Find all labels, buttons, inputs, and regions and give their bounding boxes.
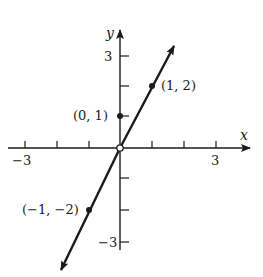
y-axis-label: y bbox=[105, 25, 115, 41]
point-label-1-2: (1, 2) bbox=[161, 78, 196, 93]
point-label-0-1: (0, 1) bbox=[73, 108, 108, 123]
point-1-2 bbox=[149, 83, 155, 89]
x-axis-label: x bbox=[240, 127, 248, 143]
y-tick-label-neg3: −3 bbox=[98, 235, 117, 250]
plotted-line bbox=[61, 46, 174, 270]
point-neg1-neg2 bbox=[86, 207, 92, 213]
point-label-neg1-neg2: (−1, −2) bbox=[22, 202, 79, 217]
y-tick-label-3: 3 bbox=[104, 49, 112, 64]
open-point-origin bbox=[117, 145, 123, 151]
point-0-1 bbox=[117, 113, 123, 119]
function-graph: −3 3 x 3 −3 y (1, 2) (0, 1) (−1, −2) bbox=[0, 0, 263, 277]
x-tick-label-3: 3 bbox=[211, 153, 219, 168]
x-tick-label-neg3: −3 bbox=[12, 153, 31, 168]
